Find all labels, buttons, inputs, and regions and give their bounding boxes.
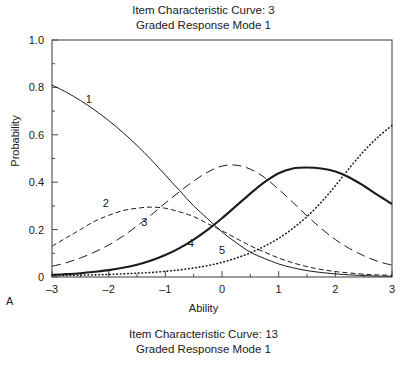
x-axis-tick-label: –2 <box>103 283 115 295</box>
curve-label-3: 3 <box>141 216 147 228</box>
curve-label-2: 2 <box>103 197 109 209</box>
curve-label-1: 1 <box>86 93 92 105</box>
y-axis-tick-label: 0 <box>38 271 44 283</box>
x-axis-tick-label: 1 <box>276 283 282 295</box>
y-axis-tick-label: 0.4 <box>29 176 44 188</box>
x-axis-tick-label: 0 <box>219 283 225 295</box>
chart-caption: Item Characteristic Curve: 13 Graded Res… <box>0 327 407 357</box>
plot-frame <box>52 40 392 277</box>
y-axis-tick-label: 1.0 <box>29 34 44 46</box>
x-axis-tick-label: –1 <box>159 283 171 295</box>
x-axis-tick-label: 3 <box>389 283 395 295</box>
curve-4 <box>52 168 392 275</box>
y-axis-tick-label: 0.8 <box>29 81 44 93</box>
x-axis-tick-label: –3 <box>46 283 58 295</box>
curve-label-5: 5 <box>219 244 225 256</box>
y-axis-tick-label: 0.6 <box>29 129 44 141</box>
curve-label-4: 4 <box>188 237 194 249</box>
x-axis-tick-label: 2 <box>332 283 338 295</box>
y-axis-tick-label: 0.2 <box>29 224 44 236</box>
chart-caption-line-2: Graded Response Mode 1 <box>0 342 407 357</box>
figure-panel-a: Item Characteristic Curve: 3 Graded Resp… <box>0 0 407 367</box>
chart-caption-line-1: Item Characteristic Curve: 13 <box>0 327 407 342</box>
icc-plot: –3–2–1012300.20.40.60.81.012345 <box>0 0 407 367</box>
